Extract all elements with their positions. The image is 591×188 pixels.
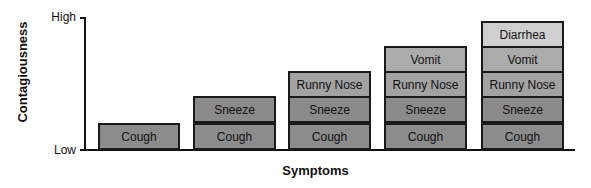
x-axis-title: Symptoms [0,163,591,178]
segment-runny-nose: Runny Nose [384,71,467,98]
bar-3: Cough Sneeze Runny Nose [288,73,371,150]
segment-sneeze: Sneeze [384,96,467,123]
segment-cough: Cough [384,123,467,150]
y-tick-mark-high [80,17,85,19]
y-tick-low: Low [36,143,76,157]
bar-2: Cough Sneeze [193,98,276,150]
segment-runny-nose: Runny Nose [481,71,564,98]
segment-vomit: Vomit [384,46,467,73]
segment-sneeze: Sneeze [193,96,276,123]
bar-5: Cough Sneeze Runny Nose Vomit Diarrhea [481,23,564,150]
y-axis-title: Contagiousness [2,0,42,188]
y-axis-title-text: Contagiousness [15,21,30,122]
segment-runny-nose: Runny Nose [288,71,371,98]
segment-sneeze: Sneeze [481,96,564,123]
segment-cough: Cough [481,123,564,150]
segment-cough: Cough [98,123,180,150]
y-axis [84,17,86,151]
segment-vomit: Vomit [481,46,564,73]
y-tick-high: High [36,10,76,24]
segment-cough: Cough [288,123,371,150]
segment-sneeze: Sneeze [288,96,371,123]
segment-diarrhea: Diarrhea [481,21,564,48]
bar-1: Cough [98,123,180,150]
bar-4: Cough Sneeze Runny Nose Vomit [384,48,467,150]
segment-cough: Cough [193,123,276,150]
